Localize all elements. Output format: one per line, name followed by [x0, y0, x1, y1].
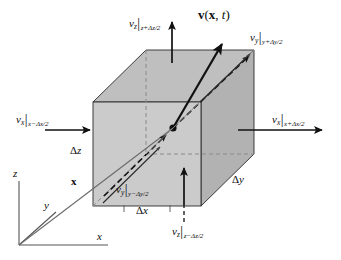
label-delta-y: Δy	[232, 174, 244, 185]
control-volume-svg	[0, 0, 341, 260]
label-v-x-right-bar: |	[280, 113, 284, 127]
label-v-y-back: vy|y+Δy/2	[250, 30, 283, 46]
label-v-y-front-bar: |	[124, 183, 128, 197]
velocity-field-label: v(x, t)	[198, 8, 230, 21]
label-v-y-front: vy|y−Δy/2	[116, 182, 149, 198]
label-v-z-bottom-bar: |	[180, 225, 184, 239]
axis-line-y	[19, 212, 56, 245]
label-delta-z: Δz	[70, 145, 81, 156]
label-v-x-right: vx|x+Δx/2	[272, 112, 305, 128]
label-v-y-back-condition: y+Δy/2	[262, 38, 283, 46]
label-v-x-left-condition: x−Δx/2	[28, 120, 49, 128]
label-v-z-top: vz|z+Δz/2	[129, 16, 160, 32]
label-v-z-bottom: vz|z−Δz/2	[172, 224, 203, 240]
label-delta-y-axis: y	[239, 173, 244, 185]
axis-label-y: y	[44, 200, 49, 211]
axis-label-x: x	[97, 231, 102, 242]
label-v-z-top-condition: z+Δz/2	[141, 24, 161, 32]
label-delta-z-axis: z	[77, 144, 81, 156]
label-v-z-bottom-condition: z−Δz/2	[184, 232, 204, 240]
axis-label-z: z	[13, 168, 17, 179]
label-delta-x: Δx	[136, 205, 148, 216]
label-v-x-left: vx|x−Δx/2	[16, 112, 49, 128]
label-delta-x-axis: x	[143, 204, 148, 216]
label-v-y-back-bar: |	[258, 31, 262, 45]
label-v-x-left-bar: |	[24, 113, 28, 127]
velocity-field-paren-close: )	[225, 7, 229, 22]
label-v-z-top-bar: |	[137, 17, 141, 31]
label-v-x-right-condition: x+Δx/2	[284, 120, 305, 128]
label-v-y-front-condition: y−Δy/2	[128, 190, 149, 198]
figure-canvas: v(x, t) vz|z+Δz/2 vy|y+Δy/2 vx|x−Δx/2 vx…	[0, 0, 341, 260]
position-vector-label: x	[71, 176, 77, 187]
